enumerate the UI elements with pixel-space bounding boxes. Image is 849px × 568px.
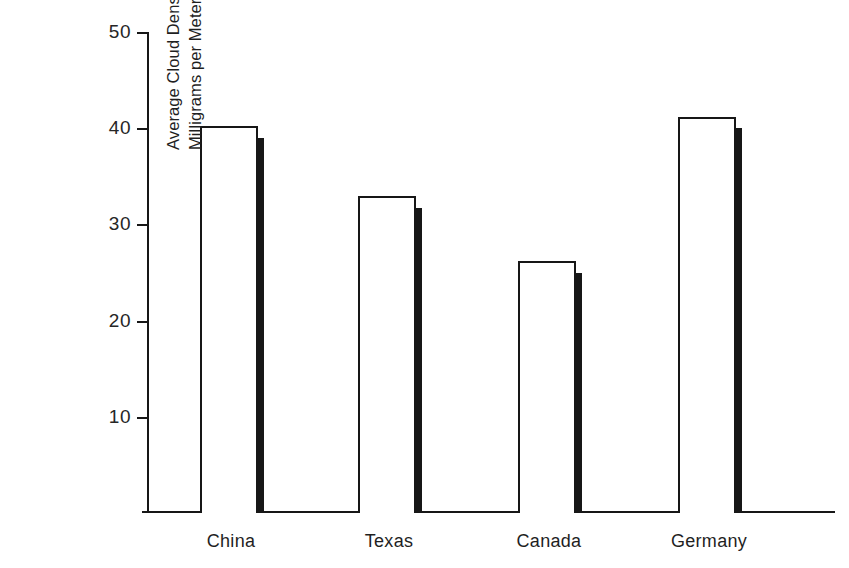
bar-front-canada bbox=[518, 261, 576, 513]
bar-group-texas bbox=[358, 32, 424, 513]
x-label-canada: Canada bbox=[517, 531, 582, 552]
x-label-germany: Germany bbox=[671, 531, 747, 552]
bar-group-canada bbox=[518, 32, 584, 513]
x-label-texas: Texas bbox=[365, 531, 414, 552]
y-axis-title-line-2: Milligrams per Meter in July bbox=[185, 0, 207, 150]
plot-area: 1020304050 Average Cloud Density in Mill… bbox=[147, 32, 835, 513]
y-axis-title: Average Cloud Density in Milligrams per … bbox=[163, 0, 207, 150]
bar-front-texas bbox=[358, 196, 416, 513]
bar-front-germany bbox=[678, 117, 736, 513]
bar-group-china bbox=[200, 32, 266, 513]
y-axis-title-line-1: Average Cloud Density in bbox=[163, 0, 185, 150]
y-tick-label: 40 bbox=[109, 117, 131, 139]
x-label-china: China bbox=[207, 531, 256, 552]
bar-group-germany bbox=[678, 32, 744, 513]
y-tick-label: 30 bbox=[109, 213, 131, 235]
y-tick-label: 10 bbox=[109, 406, 131, 428]
bar-front-china bbox=[200, 126, 258, 513]
y-tick-label: 50 bbox=[109, 21, 131, 43]
clipped-figure-title: Figure 2. Cloud density per region graph bbox=[0, 0, 849, 3]
y-tick-label: 20 bbox=[109, 310, 131, 332]
y-tick-mark bbox=[137, 224, 149, 226]
y-tick-mark bbox=[137, 32, 149, 34]
y-tick-mark bbox=[137, 321, 149, 323]
y-axis-line bbox=[147, 32, 149, 513]
chart-page: Figure 2. Cloud density per region graph… bbox=[0, 0, 849, 568]
y-tick-mark bbox=[137, 417, 149, 419]
y-tick-mark bbox=[137, 128, 149, 130]
